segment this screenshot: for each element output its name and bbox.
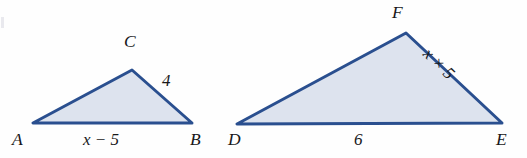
side-label-ab: x − 5: [83, 131, 119, 148]
vertex-label-a: A: [12, 131, 23, 149]
vertex-label-f: F: [392, 4, 403, 22]
vertex-label-b: B: [190, 131, 201, 149]
triangle-def-shape: [237, 33, 502, 124]
side-label-cb: 4: [162, 72, 171, 89]
geometry-figure: A B C x − 5 4 D E F 6 x × 5: [0, 0, 527, 158]
vertex-label-c: C: [124, 33, 136, 51]
vertex-label-e: E: [496, 131, 507, 149]
side-label-de: 6: [354, 131, 363, 148]
vertex-label-d: D: [228, 131, 241, 149]
